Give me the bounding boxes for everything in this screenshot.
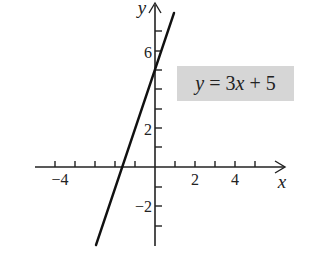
x-axis-label: x [277,171,287,192]
coordinate-plane: −4 2 4 −2 2 6 x y [0,0,314,264]
y-axis-label: y [136,0,147,18]
x-tick-label-2: 2 [191,171,199,188]
x-tick-label-neg4: −4 [51,171,68,188]
y-tick-label-2: 2 [144,121,152,138]
x-tick-label-4: 4 [231,171,239,188]
equation-x: x [236,72,245,95]
equation-y: y [195,72,204,95]
equation-label: y = 3x + 5 [177,66,294,101]
equation-rest: + 5 [244,72,275,95]
equation-eq: = 3 [204,72,235,95]
y-tick-label-neg2: −2 [135,198,152,215]
y-tick-label-6: 6 [144,44,152,61]
